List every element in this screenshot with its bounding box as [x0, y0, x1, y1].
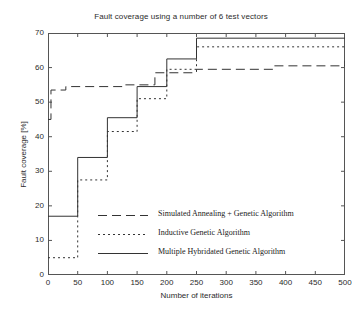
chart-legend: Simulated Annealing + Genetic Algorithm …: [96, 206, 320, 264]
x-tick-label: 150: [122, 278, 152, 287]
x-axis-label: Number of iterations: [48, 291, 345, 300]
chart-title: Fault coverage using a number of 6 test …: [0, 12, 362, 21]
x-tick-label: 500: [330, 278, 360, 287]
x-tick-label: 50: [63, 278, 93, 287]
legend-line-solid: [96, 244, 150, 263]
x-tick-label: 200: [152, 278, 182, 287]
x-tick-label: 450: [300, 278, 330, 287]
legend-entry: Multiple Hybridated Genetic Algorithm: [96, 244, 320, 263]
y-tick-label: 60: [24, 64, 44, 72]
legend-label: Inductive Genetic Algorithm: [158, 228, 250, 237]
x-tick-label: 0: [33, 278, 63, 287]
x-axis-tick-labels: 050100150200250300350400450500: [0, 278, 362, 290]
x-tick-label: 250: [182, 278, 212, 287]
chart-figure: Fault coverage using a number of 6 test …: [0, 0, 362, 316]
x-tick-label: 400: [271, 278, 301, 287]
legend-line-dashed: [96, 206, 150, 225]
x-tick-label: 100: [92, 278, 122, 287]
y-tick-label: 10: [24, 236, 44, 244]
legend-label: Simulated Annealing + Genetic Algorithm: [158, 209, 294, 218]
legend-entry: Simulated Annealing + Genetic Algorithm: [96, 206, 320, 225]
x-tick-label: 350: [241, 278, 271, 287]
y-axis-label: Fault coverage [%]: [19, 85, 28, 225]
y-tick-label: 70: [24, 29, 44, 37]
legend-label: Multiple Hybridated Genetic Algorithm: [158, 247, 285, 256]
legend-line-dotted: [96, 225, 150, 244]
legend-entry: Inductive Genetic Algorithm: [96, 225, 320, 244]
x-tick-label: 300: [211, 278, 241, 287]
